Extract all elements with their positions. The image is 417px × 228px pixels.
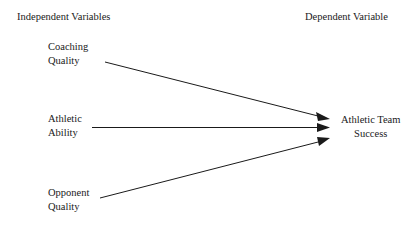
arrow-coaching-to-success — [105, 62, 330, 121]
node-athletic-ability-line1: Athletic — [48, 112, 82, 126]
node-athletic-ability-line2: Ability — [48, 126, 82, 140]
node-coaching-quality-line1: Coaching — [48, 40, 88, 54]
diagram-canvas: Independent Variables Dependent Variable… — [0, 0, 417, 228]
node-opponent-quality-line2: Quality — [48, 200, 89, 214]
node-coaching-quality: Coaching Quality — [48, 40, 88, 68]
arrow-opponent-to-success — [100, 137, 330, 198]
node-opponent-quality: Opponent Quality — [48, 186, 89, 214]
arrow-athletic-to-success — [92, 123, 330, 132]
node-athletic-ability: Athletic Ability — [48, 112, 82, 140]
node-athletic-team-success: Athletic Team Success — [341, 113, 400, 141]
node-athletic-team-success-line1: Athletic Team — [341, 113, 400, 127]
node-coaching-quality-line2: Quality — [48, 54, 88, 68]
node-athletic-team-success-line2: Success — [341, 127, 400, 141]
node-opponent-quality-line1: Opponent — [48, 186, 89, 200]
